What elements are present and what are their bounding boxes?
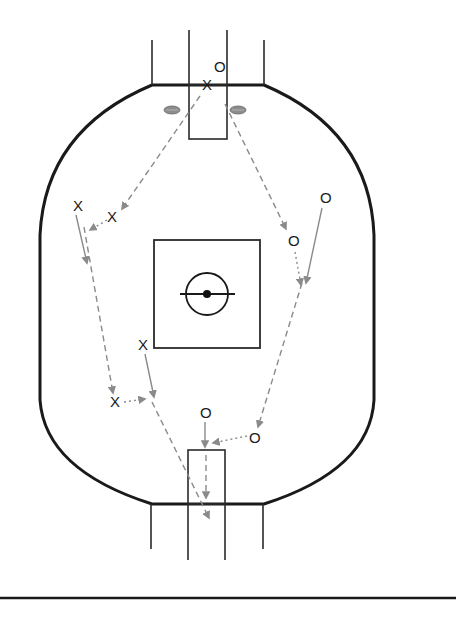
top-goal-square — [189, 85, 227, 139]
kick-path — [84, 227, 113, 393]
player-x: X — [110, 393, 120, 410]
player-x: X — [202, 76, 212, 93]
run-path — [76, 215, 87, 263]
field-diagram: X O X X O O X X O O — [0, 0, 456, 617]
player-o: O — [200, 404, 212, 421]
centre-dot — [203, 290, 211, 298]
handball-path — [295, 252, 301, 285]
handball-path — [213, 436, 247, 443]
player-o: O — [214, 58, 226, 75]
kick-path — [122, 96, 200, 209]
run-path — [306, 208, 322, 283]
player-o: O — [249, 429, 261, 446]
kick-path — [225, 104, 286, 229]
handball-path — [124, 399, 145, 402]
handball-path — [90, 220, 107, 230]
kick-path — [258, 283, 302, 427]
player-x: X — [107, 208, 117, 225]
player-o: O — [320, 189, 332, 206]
player-x: X — [138, 336, 148, 353]
player-o: O — [288, 232, 300, 249]
player-x: X — [73, 197, 83, 214]
run-path — [145, 354, 154, 397]
